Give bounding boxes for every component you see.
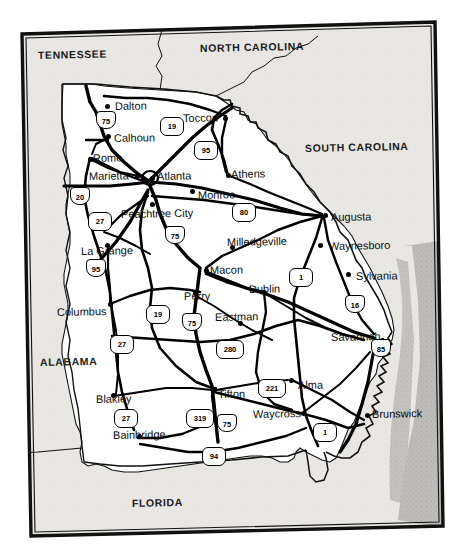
route-shield-number: 85 <box>377 345 385 354</box>
city-dot-tifton <box>212 387 217 392</box>
route-shield-interstate-95: 95 <box>86 259 106 277</box>
route-shield-us-1: 1 <box>289 268 313 287</box>
route-shield-number: 27 <box>122 414 130 423</box>
city-dot-rome <box>88 157 93 162</box>
route-shield-interstate-20: 20 <box>70 187 90 205</box>
city-dot-dublin <box>262 290 267 295</box>
city-dot-toccoa <box>223 116 228 121</box>
city-dot-augusta <box>323 213 328 218</box>
city-dot-macon <box>204 268 209 273</box>
city-dot-waynesboro <box>318 243 323 248</box>
route-shield-number: 319 <box>194 414 207 423</box>
city-dot-athens <box>226 173 231 178</box>
city-dot-blakley <box>111 393 116 398</box>
city-dot-dalton <box>105 104 110 109</box>
city-dot-peachtree-city <box>150 202 155 207</box>
route-shield-interstate-75: 75 <box>182 313 202 331</box>
route-shield-number: 95 <box>202 146 210 155</box>
route-shield-number: 280 <box>224 345 237 354</box>
route-shield-interstate-16: 16 <box>345 295 365 313</box>
route-shield-number: 19 <box>154 310 162 319</box>
route-shield-interstate-75: 75 <box>165 226 185 244</box>
route-shield-interstate-85: 85 <box>371 339 391 357</box>
route-shield-number: 27 <box>96 217 104 226</box>
city-dot-sylvania <box>346 272 351 277</box>
city-dot-brunswick <box>365 413 370 418</box>
route-shield-us-19: 19 <box>146 305 170 324</box>
route-shield-us-319: 319 <box>186 409 214 428</box>
route-shield-number: 27 <box>118 340 126 349</box>
city-dot-waycross <box>301 411 306 416</box>
route-shield-us-95: 95 <box>194 141 218 160</box>
route-shield-number: 95 <box>92 265 100 274</box>
city-dot-alma <box>289 378 294 383</box>
route-shield-number: 19 <box>168 122 176 131</box>
route-shield-interstate-75: 75 <box>217 414 237 432</box>
route-shield-number: 75 <box>171 232 179 241</box>
route-shield-us-280: 280 <box>216 340 244 359</box>
route-shield-number: 75 <box>188 319 196 328</box>
city-dot-marietta <box>135 174 140 179</box>
route-shield-us-27: 27 <box>110 335 134 354</box>
city-dot-la-grange <box>105 243 110 248</box>
route-shield-us-221: 221 <box>258 379 286 398</box>
georgia-highway-map: TENNESSEENORTH CAROLINASOUTH CAROLINAALA… <box>0 0 455 556</box>
route-shield-number: 221 <box>266 384 279 393</box>
route-shield-us-27: 27 <box>88 212 112 231</box>
route-shield-interstate-75: 75 <box>96 111 116 129</box>
route-shield-number: 1 <box>323 428 327 437</box>
city-dot-milledgeville <box>230 245 235 250</box>
route-shield-number: 80 <box>240 208 248 217</box>
route-shield-us-94: 94 <box>202 447 226 466</box>
route-shield-number: 75 <box>223 420 231 429</box>
map-body <box>15 15 445 545</box>
route-shield-number: 1 <box>299 273 303 282</box>
route-shield-number: 94 <box>210 452 218 461</box>
city-dot-monroe <box>190 189 195 194</box>
route-shield-number: 75 <box>102 117 110 126</box>
route-shield-us-80: 80 <box>232 203 256 222</box>
route-shield-number: 20 <box>76 193 84 202</box>
city-dot-perry <box>193 291 198 296</box>
city-dot-calhoun <box>106 134 111 139</box>
route-shield-number: 16 <box>351 301 359 310</box>
city-dot-atlanta <box>150 176 155 181</box>
route-shield-us-19: 19 <box>160 117 184 136</box>
map-canvas <box>0 0 455 556</box>
city-dot-eastman <box>238 321 243 326</box>
city-dot-bainbridge <box>137 434 142 439</box>
route-shield-us-27: 27 <box>114 409 138 428</box>
city-dot-columbus <box>108 302 113 307</box>
route-shield-us-1: 1 <box>313 423 337 442</box>
